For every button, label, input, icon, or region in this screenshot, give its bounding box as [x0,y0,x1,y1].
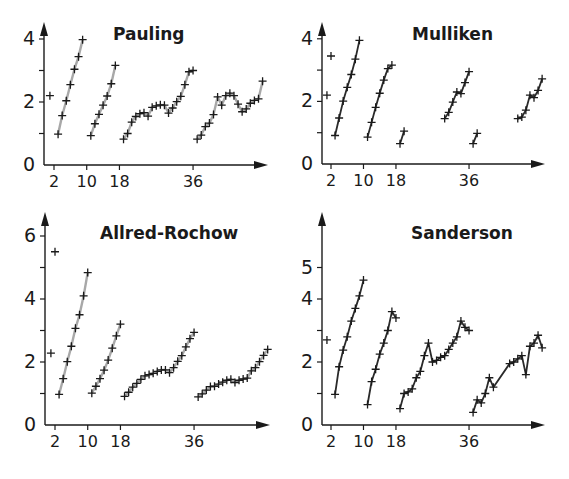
plus-marker-icon [239,375,247,383]
plus-marker-icon [400,127,408,135]
plus-marker-icon [331,390,339,398]
plus-marker-icon [323,91,331,99]
panel-title: Mulliken [412,24,493,44]
y-tick-label: 4 [301,27,313,49]
y-axis-arrow-icon [318,22,326,36]
plus-marker-icon [538,344,546,352]
plus-marker-icon [107,80,115,88]
plus-marker-icon [79,36,87,44]
x-tick-label: 36 [459,432,479,451]
plus-marker-icon [343,333,351,341]
plus-marker-icon [223,376,231,384]
plus-marker-icon [99,101,107,109]
plus-marker-icon [355,292,363,300]
plus-marker-icon [219,378,227,386]
x-tick-label: 10 [353,171,373,190]
panel-pauling: Pauling 0242101836 [23,22,268,191]
y-tick-label: 2 [301,89,313,111]
plus-marker-icon [46,92,54,100]
data-series [88,320,125,397]
plus-marker-icon [58,112,66,120]
x-tick-label: 2 [50,432,60,451]
plus-marker-icon [71,324,79,332]
plus-marker-icon [368,118,376,126]
plus-marker-icon [457,90,465,98]
series-line [368,312,396,405]
x-tick-label: 10 [78,432,98,451]
plus-marker-icon [63,358,71,366]
plus-marker-icon [355,36,363,44]
plus-marker-icon [469,408,477,416]
plus-marker-icon [481,390,489,398]
plus-marker-icon [112,332,120,340]
panel-mulliken: Mulliken 0242101836 [301,22,546,190]
plus-marker-icon [522,371,530,379]
panel-title: Allred-Rochow [100,223,239,243]
plus-marker-icon [465,68,473,76]
x-tick-label: 36 [459,171,479,190]
data-series [441,68,473,123]
plus-marker-icon [214,93,222,101]
plus-marker-icon [380,339,388,347]
panel-title: Sanderson [411,223,513,243]
plus-marker-icon [100,366,108,374]
x-tick-label: 10 [353,432,373,451]
x-tick-label: 2 [326,432,336,451]
plus-marker-icon [380,76,388,84]
plus-marker-icon [351,304,359,312]
y-tick-label: 5 [301,256,313,278]
plus-marker-icon [75,53,83,61]
plus-marker-icon [538,75,546,83]
data-series [120,67,198,144]
plus-marker-icon [152,102,160,110]
plus-marker-icon [429,358,437,366]
plus-marker-icon [87,132,95,140]
data-series [323,91,331,99]
plus-marker-icon [108,344,116,352]
data-series [323,336,331,344]
plus-marker-icon [461,79,469,87]
data-series [55,269,92,399]
data-series [51,248,59,256]
x-tick-label: 18 [110,432,130,451]
plus-marker-icon [534,331,542,339]
x-axis-arrow-icon [531,421,545,429]
plus-marker-icon [80,292,88,300]
x-axis-arrow-icon [531,160,545,168]
plus-marker-icon [111,61,119,69]
data-series [54,36,87,139]
y-axis-arrow-icon [318,212,326,226]
plus-marker-icon [47,349,55,357]
plus-marker-icon [339,346,347,354]
y-tick-label: 2 [24,350,36,372]
plus-marker-icon [522,106,530,114]
data-series [121,328,199,400]
plus-marker-icon [153,367,161,375]
plus-marker-icon [453,88,461,96]
plus-marker-icon [145,371,153,379]
data-series [47,349,55,357]
y-tick-label: 4 [301,287,313,309]
plus-marker-icon [181,81,189,89]
data-series [396,317,473,413]
plus-marker-icon [514,115,522,123]
y-tick-label: 0 [23,153,35,175]
plus-marker-icon [185,68,193,76]
plus-marker-icon [149,369,157,377]
y-tick-label: 2 [23,90,35,112]
plus-marker-icon [70,65,78,73]
plus-marker-icon [347,70,355,78]
x-tick-label: 18 [386,171,406,190]
y-tick-label: 4 [23,27,35,49]
x-tick-label: 2 [326,171,336,190]
plus-marker-icon [76,311,84,319]
plus-marker-icon [376,89,384,97]
plus-marker-icon [259,77,267,85]
x-axis-arrow-icon [254,161,268,169]
plus-marker-icon [51,248,59,256]
plus-marker-icon [116,320,124,328]
plus-marker-icon [189,67,197,75]
x-tick-label: 36 [183,172,203,191]
plus-marker-icon [359,276,367,284]
plus-marker-icon [210,111,218,119]
